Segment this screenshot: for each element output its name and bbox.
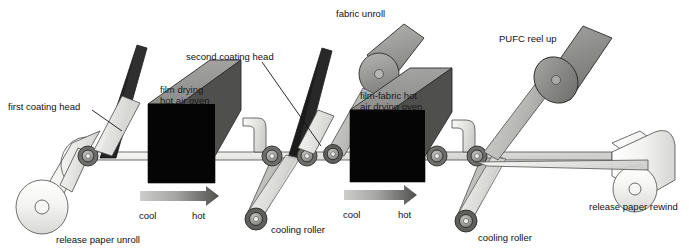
temperature-gradient-arrow-2: cool hot bbox=[343, 185, 417, 220]
release-paper-return-band bbox=[477, 160, 648, 170]
nip-roller-delam-shaft bbox=[475, 154, 480, 159]
oven2-label-line2: air drying oven bbox=[360, 101, 422, 112]
cooling-roller-2 bbox=[455, 210, 477, 232]
oven2-front-fill bbox=[350, 110, 425, 182]
label-cooling-roller-2: cooling roller bbox=[478, 232, 532, 243]
label-pufc-reel-up: PUFC reel up bbox=[499, 33, 557, 44]
nip-roller-oven2-exit-shaft bbox=[435, 154, 440, 159]
oven1-label-line1: film drying bbox=[160, 84, 203, 95]
web-loop-cooling-roller-1 bbox=[243, 118, 300, 218]
arrow2-hot-label: hot bbox=[398, 209, 412, 220]
label-fabric-unroll: fabric unroll bbox=[336, 8, 385, 19]
first-nip-roller-shaft bbox=[86, 154, 91, 159]
pufc-reel-core-hole bbox=[552, 76, 561, 85]
release-paper-rewind-roll bbox=[612, 131, 675, 212]
cooling-roller-1-shaft bbox=[253, 216, 258, 221]
process-diagram: film drying hot air oven cool hot bbox=[0, 0, 689, 252]
cooling-roller-1 bbox=[245, 208, 267, 230]
arrow1-hot-label: hot bbox=[192, 210, 206, 221]
rewind-core-hole bbox=[629, 183, 641, 195]
film-drying-hot-air-oven: film drying hot air oven bbox=[148, 60, 241, 183]
label-release-paper-rewind: release paper rewind bbox=[589, 201, 678, 212]
label-first-coating-head: first coating head bbox=[8, 101, 80, 112]
release-paper-return-span bbox=[477, 160, 648, 170]
arrow2-shape bbox=[344, 185, 417, 205]
arrow1-cool-label: cool bbox=[139, 210, 156, 221]
temperature-gradient-arrow-1: cool hot bbox=[139, 186, 219, 221]
fabric-unroll-core-hole bbox=[375, 70, 384, 79]
label-cooling-roller-1: cooling roller bbox=[271, 224, 325, 235]
web-oven1-exit bbox=[243, 118, 266, 152]
oven2-label-line1: film-fabric hot bbox=[360, 90, 417, 101]
nip-roller-fabric-join-shaft bbox=[331, 152, 336, 157]
nip-roller-fabric-join bbox=[324, 145, 343, 164]
process-diagram-canvas: film drying hot air oven cool hot bbox=[0, 0, 689, 252]
arrow1-shape bbox=[140, 186, 219, 206]
web-first-head-rise bbox=[94, 96, 140, 156]
web-over-first-head bbox=[94, 96, 140, 156]
nip-roller-second-head-shaft bbox=[305, 154, 310, 159]
cooling-roller-2-shaft bbox=[463, 218, 468, 223]
nip-roller-oven1-exit bbox=[262, 146, 282, 166]
label-second-coating-head: second coating head bbox=[186, 51, 274, 62]
nip-roller-oven1-exit-shaft bbox=[270, 154, 275, 159]
arrow2-cool-label: cool bbox=[343, 209, 360, 220]
label-release-paper-unroll: release paper unroll bbox=[56, 234, 140, 245]
nip-roller-oven2-exit bbox=[427, 146, 447, 166]
oven1-front-fill bbox=[148, 104, 215, 183]
unroll-core-hole bbox=[35, 200, 49, 214]
oven1-label-line2: hot air oven bbox=[160, 95, 210, 106]
